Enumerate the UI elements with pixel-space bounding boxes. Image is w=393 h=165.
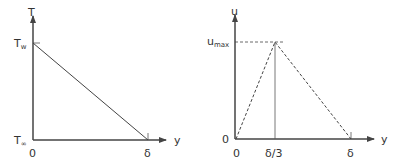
velocity-profile-dashed	[236, 42, 351, 139]
right-y-origin-label: 0	[222, 133, 229, 146]
right-delta-label: δ	[347, 147, 354, 160]
left-delta-label: δ	[144, 147, 151, 160]
left-plot: T y Tw T∞ 0 δ	[13, 6, 181, 160]
left-y-axis-label: T	[27, 6, 35, 19]
temperature-profile-line	[33, 43, 148, 140]
left-x-axis-label: y	[174, 134, 181, 147]
right-plot: u y umax 0 0 δ/3 δ	[207, 5, 388, 160]
right-x-axis-label: y	[381, 133, 388, 146]
right-x-origin-label: 0	[233, 147, 240, 160]
umax-label: umax	[207, 35, 229, 49]
tinf-label: T∞	[13, 134, 27, 148]
delta-third-label: δ/3	[265, 147, 282, 160]
diagram-canvas: T y Tw T∞ 0 δ u y umax 0 0 δ/3 δ	[0, 0, 393, 165]
left-origin-label: 0	[29, 147, 36, 160]
tw-label: Tw	[13, 37, 27, 51]
right-y-axis-label: u	[231, 5, 238, 18]
